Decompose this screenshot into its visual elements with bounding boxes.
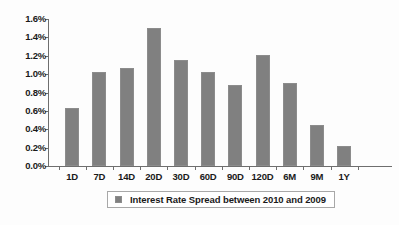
x-tick-mark <box>358 167 359 170</box>
bar <box>201 72 215 166</box>
y-tick-label: 1.4% <box>6 32 46 42</box>
x-tick-mark <box>331 167 332 170</box>
x-tick-label: 1Y <box>324 171 364 182</box>
bar <box>228 85 242 166</box>
x-tick-mark <box>167 167 168 170</box>
bar <box>310 125 324 166</box>
legend-label: Interest Rate Spread between 2010 and 20… <box>130 194 326 205</box>
bar <box>174 60 188 166</box>
y-tick-label: 1.2% <box>6 51 46 61</box>
y-tick-label: 0.8% <box>6 88 46 98</box>
x-tick-mark <box>195 167 196 170</box>
bar <box>283 83 297 166</box>
y-tick-label: 0.2% <box>6 143 46 153</box>
x-tick-mark <box>276 167 277 170</box>
bar <box>256 55 270 166</box>
bar <box>337 146 351 166</box>
x-tick-mark <box>86 167 87 170</box>
y-tick-label: 1.0% <box>6 69 46 79</box>
y-axis-line <box>48 19 49 166</box>
x-axis-line <box>48 166 392 167</box>
plot-area: 1D7D14D20D30D60D90D120D6M9M1Y <box>48 19 392 166</box>
x-tick-mark <box>113 167 114 170</box>
bar <box>65 108 79 166</box>
bar <box>147 28 161 166</box>
bar-chart: 1D7D14D20D30D60D90D120D6M9M1Y 1.6%1.4%1.… <box>0 0 399 225</box>
x-tick-mark <box>59 167 60 170</box>
x-tick-mark <box>249 167 250 170</box>
y-tick-label: 0.4% <box>6 124 46 134</box>
x-tick-mark <box>303 167 304 170</box>
x-tick-mark <box>140 167 141 170</box>
legend-swatch-icon <box>115 196 122 203</box>
y-tick-label: 0.0% <box>6 161 46 171</box>
chart-legend: Interest Rate Spread between 2010 and 20… <box>107 191 335 208</box>
y-tick-label: 1.6% <box>6 14 46 24</box>
bar <box>92 72 106 166</box>
bar <box>120 68 134 166</box>
y-tick-label: 0.6% <box>6 106 46 116</box>
x-tick-mark <box>222 167 223 170</box>
